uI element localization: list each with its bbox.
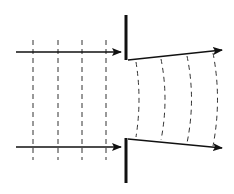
curved-wavefront (187, 56, 192, 143)
rays (16, 50, 222, 148)
diffracted-ray-bottom (128, 139, 222, 148)
diffraction-diagram (0, 0, 234, 194)
curved-wavefront (161, 59, 165, 140)
curved-wavefront (213, 53, 218, 146)
curved-wavefront (136, 62, 139, 137)
incident-wavefronts (33, 40, 106, 160)
diffracted-ray-top (128, 50, 222, 60)
diffracted-wavefronts (136, 53, 218, 146)
